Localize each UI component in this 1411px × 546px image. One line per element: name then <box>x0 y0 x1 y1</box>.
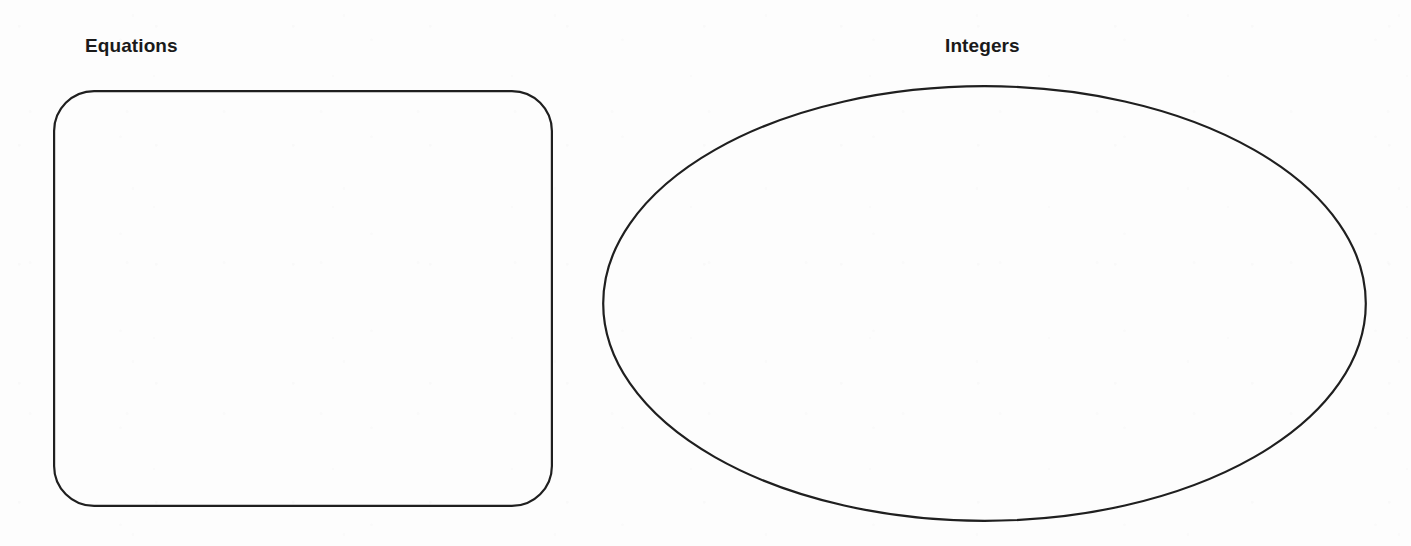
category-label-equations: Equations <box>85 36 178 55</box>
ellipse-shape <box>602 85 1367 522</box>
sorting-worksheet: Equations Integers <box>0 0 1411 546</box>
sort-zone-equations[interactable] <box>53 90 553 507</box>
rounded-rectangle-shape <box>53 90 553 507</box>
sort-zone-integers[interactable] <box>602 85 1367 522</box>
category-label-integers: Integers <box>945 36 1020 55</box>
